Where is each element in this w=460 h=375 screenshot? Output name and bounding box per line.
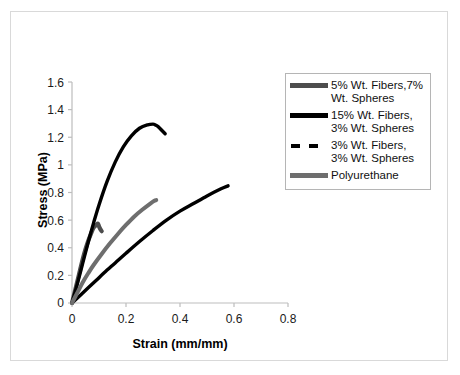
x-tick-label-0.8: 0.8 [271, 312, 305, 326]
dashed-black-line-swatch [290, 139, 328, 153]
medium-gray-line-swatch [290, 169, 328, 183]
legend-label-2: 3% Wt. Fibers, 3% Wt. Spheres [331, 139, 426, 165]
legend-label-1: 15% Wt. Fibers, 3% Wt. Spheres [331, 109, 426, 135]
thick-gray-line-swatch [290, 79, 328, 93]
x-tick-label-0.4: 0.4 [163, 312, 197, 326]
y-tick-label-0.2: 0.2 [30, 269, 64, 283]
x-tick-label-0.6: 0.6 [217, 312, 251, 326]
legend-entry-0[interactable]: 5% Wt. Fibers,7% Wt. Spheres [290, 79, 426, 105]
x-tick-label-0: 0 [55, 312, 89, 326]
thick-black-line-swatch [290, 109, 328, 123]
data-series-layer [72, 124, 228, 303]
chart-legend: 5% Wt. Fibers,7% Wt. Spheres 15% Wt. Fib… [285, 73, 431, 190]
y-tick-label-1.6: 1.6 [30, 76, 64, 90]
x-axis-title: Strain (mm/mm) [72, 337, 288, 351]
chart-screenshot: 1.6 1.4 1.2 1 0.8 0.6 0.4 0.2 0 0 0.2 0.… [0, 0, 460, 375]
y-tick-label-0: 0 [30, 296, 64, 310]
legend-entry-2[interactable]: 3% Wt. Fibers, 3% Wt. Spheres [290, 139, 426, 165]
y-axis-title: Stress (MPa) [36, 115, 50, 265]
legend-label-0: 5% Wt. Fibers,7% Wt. Spheres [331, 79, 426, 105]
x-tick-label-0.2: 0.2 [109, 312, 143, 326]
legend-entry-3[interactable]: Polyurethane [290, 169, 426, 183]
legend-entry-1[interactable]: 15% Wt. Fibers, 3% Wt. Spheres [290, 109, 426, 135]
legend-label-3: Polyurethane [331, 169, 426, 182]
